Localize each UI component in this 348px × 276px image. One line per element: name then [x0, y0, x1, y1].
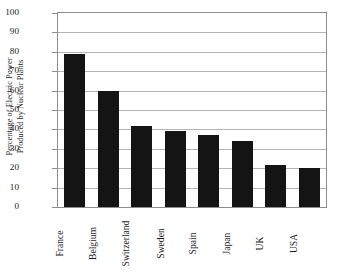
- y-tick-label: 100: [0, 8, 19, 17]
- y-tick-label: 30: [0, 144, 19, 153]
- y-tick-label: 60: [0, 86, 19, 95]
- y-tick-label: 80: [0, 47, 19, 56]
- bar: [165, 131, 186, 207]
- gridline: [58, 71, 326, 72]
- bar: [198, 135, 219, 207]
- y-tick-label: 40: [0, 125, 19, 134]
- bar-chart-figure: Percentage of Electric Power Produced by…: [0, 0, 348, 276]
- x-tick-label-text: USA: [288, 233, 299, 252]
- y-tick-label: 50: [0, 105, 19, 114]
- x-tick-label-text: Switzerland: [121, 220, 132, 266]
- gridline: [58, 32, 326, 33]
- x-tick-label-text: Sweden: [154, 228, 165, 258]
- bar: [265, 165, 286, 207]
- x-tick-label-text: France: [54, 230, 65, 256]
- x-tick-label-text: UK: [255, 236, 266, 250]
- x-tick-label-text: Belgium: [87, 226, 98, 259]
- bar: [232, 141, 253, 207]
- y-tick-label: 70: [0, 67, 19, 76]
- bar: [64, 54, 85, 207]
- y-tick-label: 20: [0, 164, 19, 173]
- x-tick-label-text: Japan: [221, 232, 232, 254]
- bar: [131, 126, 152, 207]
- bar: [299, 168, 320, 207]
- gridline: [58, 52, 326, 53]
- bar: [98, 91, 119, 207]
- y-tick-label: 10: [0, 183, 19, 192]
- plot-area: [57, 12, 327, 208]
- x-tick-label-text: Spain: [188, 232, 199, 254]
- y-tick-label: 0: [0, 202, 19, 211]
- y-tick-label: 90: [0, 28, 19, 37]
